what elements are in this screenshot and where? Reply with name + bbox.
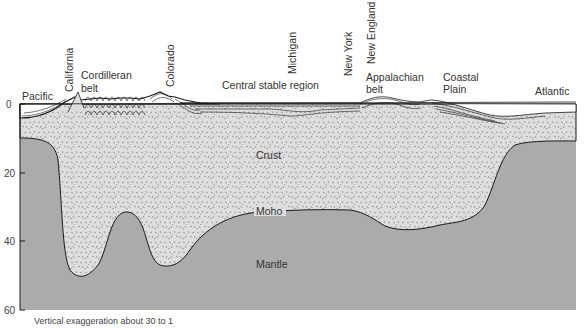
tick-label-40: 40	[4, 236, 16, 247]
label-colorado: Colorado	[164, 44, 176, 87]
label-mantle: Mantle	[256, 258, 288, 270]
label-central: Central stable region	[222, 79, 319, 91]
label-appalachian-1: Appalachian	[366, 71, 424, 83]
caption: Vertical exaggeration about 30 to 1	[34, 316, 173, 326]
tick-label-20: 20	[4, 168, 16, 179]
label-appalachian-2: belt	[366, 83, 383, 95]
tick-label-60: 60	[4, 305, 16, 316]
label-atlantic: Atlantic	[535, 85, 569, 97]
tick-label-0: 0	[6, 99, 12, 110]
label-coastal-1: Coastal	[443, 71, 479, 83]
label-michigan: Michigan	[286, 32, 298, 74]
cross-section-diagram: 0 20 40 60 Pacific California Cordillera…	[0, 0, 585, 328]
label-new-england: New England	[365, 1, 377, 64]
label-cordilleran-2: belt	[81, 82, 98, 94]
label-crust: Crust	[256, 149, 281, 161]
label-coastal-2: Plain	[443, 83, 467, 95]
label-cordilleran-1: Cordilleran	[81, 69, 132, 81]
label-moho: Moho	[256, 205, 282, 217]
label-pacific: Pacific	[22, 90, 53, 102]
label-california: California	[63, 47, 75, 92]
label-new-york: New York	[342, 31, 354, 76]
